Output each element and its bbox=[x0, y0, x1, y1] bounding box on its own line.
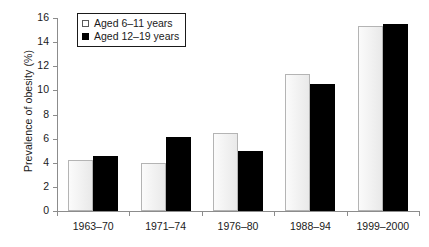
bar-group bbox=[202, 18, 274, 211]
y-tick-label: 12 bbox=[27, 59, 49, 72]
bar bbox=[166, 137, 191, 211]
x-axis-label: 1963–70 bbox=[57, 220, 129, 232]
y-tick-label: 6 bbox=[27, 132, 49, 145]
legend-label: Aged 6–11 years bbox=[94, 17, 173, 30]
x-axis-tick bbox=[57, 211, 58, 216]
y-tick-label: 8 bbox=[27, 108, 49, 121]
legend-item-aged-12-19: Aged 12–19 years bbox=[82, 30, 179, 43]
x-axis-label: 1976–80 bbox=[202, 220, 274, 232]
bar-chart: Prevalence of obesity (%) 02468101214161… bbox=[0, 0, 429, 247]
bar-group bbox=[274, 18, 346, 211]
x-axis-tick bbox=[202, 211, 203, 216]
x-axis-label: 1988–94 bbox=[274, 220, 346, 232]
y-tick-label: 10 bbox=[27, 83, 49, 96]
bar bbox=[93, 156, 118, 211]
bar bbox=[310, 84, 335, 211]
y-tick-label: 4 bbox=[27, 156, 49, 169]
black-square-icon bbox=[82, 33, 89, 40]
y-tick-label: 0 bbox=[27, 204, 49, 217]
light-square-icon bbox=[82, 20, 89, 27]
x-axis-label: 1999–2000 bbox=[347, 220, 419, 232]
x-axis-tick bbox=[129, 211, 130, 216]
y-tick-label: 16 bbox=[27, 11, 49, 24]
legend-label: Aged 12–19 years bbox=[94, 30, 179, 43]
y-tick-label: 14 bbox=[27, 35, 49, 48]
chart-legend: Aged 6–11 years Aged 12–19 years bbox=[77, 13, 186, 47]
bar bbox=[383, 24, 408, 211]
legend-item-aged-6-11: Aged 6–11 years bbox=[82, 17, 179, 30]
x-axis-tick bbox=[419, 211, 420, 216]
bar bbox=[285, 74, 310, 212]
bar bbox=[238, 151, 263, 211]
bar bbox=[213, 133, 238, 211]
x-axis-line bbox=[57, 211, 419, 212]
bar bbox=[68, 160, 93, 211]
x-axis-tick bbox=[274, 211, 275, 216]
x-axis-label: 1971–74 bbox=[129, 220, 201, 232]
bar-group bbox=[347, 18, 419, 211]
bar bbox=[141, 163, 166, 211]
bar bbox=[358, 26, 383, 211]
x-axis-tick bbox=[347, 211, 348, 216]
y-tick-label: 2 bbox=[27, 180, 49, 193]
